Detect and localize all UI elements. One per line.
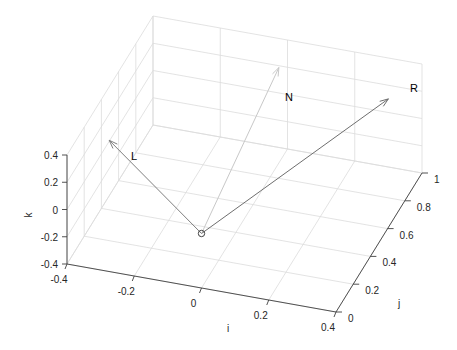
y-axis-label: j — [397, 298, 400, 309]
floor-grid-line — [202, 149, 288, 288]
z-tick-label: 0.4 — [44, 150, 58, 161]
left-wall-grid-line — [67, 43, 153, 182]
floor-grid-line — [136, 153, 405, 201]
floor-grid-line — [84, 236, 353, 284]
z-tick-label: 0 — [52, 205, 58, 216]
vector-label-R: R — [410, 82, 418, 94]
x-tick-label: 0 — [191, 298, 197, 309]
y-tick-label: 0.8 — [417, 202, 431, 213]
floor-grid-line — [269, 161, 355, 300]
x-tick — [132, 276, 134, 281]
z-tick-label: -0.2 — [41, 232, 59, 243]
left-wall-grid-line — [67, 125, 153, 264]
y-tick-label: 0 — [348, 313, 354, 324]
y-tick-label: 1 — [434, 174, 440, 185]
x-tick-label: 0.4 — [321, 322, 335, 333]
left-wall-grid-line — [67, 98, 153, 237]
floor-grid-line — [134, 137, 220, 276]
left-wall-grid-line — [67, 71, 153, 210]
y-tick-label: 0.6 — [400, 230, 414, 241]
x-tick-label: -0.2 — [118, 286, 136, 297]
y-tick-label: 0.4 — [382, 257, 396, 268]
vector-label-L: L — [131, 150, 137, 162]
vector-R-shaft — [202, 99, 389, 234]
grid-lines — [67, 16, 422, 312]
x-axis-label: i — [227, 323, 229, 334]
vector-label-N: N — [285, 91, 293, 103]
z-axis-label: k — [23, 212, 34, 218]
x-tick — [200, 288, 202, 293]
plot-area: -0.4-0.200.20.400.20.40.60.81-0.4-0.200.… — [0, 0, 457, 350]
floor-grid-line — [119, 181, 388, 229]
left-wall-grid-line — [67, 16, 153, 155]
x-tick-label: 0.2 — [254, 310, 268, 321]
x-tick — [334, 312, 336, 317]
floor-grid-line — [101, 208, 370, 256]
y-tick-label: 0.2 — [365, 285, 379, 296]
vector-L-shaft — [109, 140, 201, 233]
x-tick — [267, 300, 269, 305]
vector-N-shaft — [202, 68, 279, 234]
x-tick — [65, 264, 67, 269]
z-tick-label: -0.4 — [41, 259, 59, 270]
z-tick-label: 0.2 — [44, 177, 58, 188]
x-tick-label: -0.4 — [50, 274, 68, 285]
